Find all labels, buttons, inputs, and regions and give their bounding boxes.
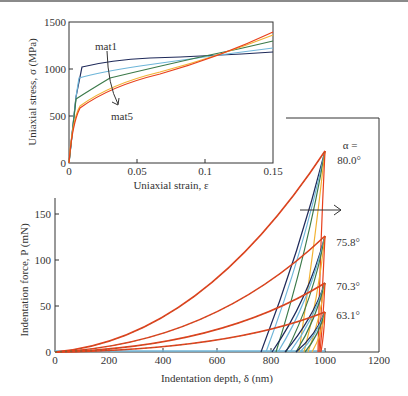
y-axis-label: Uniaxial stress, σ (MPa) [26,38,39,146]
x-tick-label: 0 [66,165,72,177]
alpha-70-3-label: 70.3° [336,280,360,292]
x-tick-label: 0 [52,354,58,366]
y-tick-label: 100 [35,254,52,266]
x-axis-label: Indentation depth, δ (nm) [161,372,273,385]
arrow-icon [300,205,341,215]
y-tick-label: 150 [35,208,52,220]
stress-strain-chart: 0 0.05 0.1 0.15 0 500 1000 1500 Uniaxial… [0,4,285,196]
y-tick-label: 0 [46,346,52,358]
mat1-label: mat1 [95,40,117,52]
x-tick-label: 1200 [368,354,391,366]
y-tick-label: 0 [61,157,67,169]
y-tick-label: 1000 [44,63,67,75]
y-tick-label: 50 [40,300,52,312]
y-tick-label: 500 [50,110,67,122]
alpha-63-1-label: 63.1° [336,309,360,321]
figure: 0 200 400 600 800 1000 1200 0 50 100 150… [0,0,408,396]
x-tick-label: 800 [263,354,280,366]
x-tick-label: 1000 [314,354,337,366]
x-axis-label: Uniaxial strain, ε [133,179,209,191]
curve-75-8 [55,236,325,352]
y-axis-label: Indentation force, P (mN) [18,223,31,337]
x-tick-label: 0.1 [198,165,212,177]
x-tick-label: 200 [101,354,118,366]
alpha-label: α = [343,139,358,151]
x-tick-label: 400 [155,354,172,366]
y-tick-label: 1500 [44,16,67,28]
alpha-75-8-label: 75.8° [336,236,360,248]
mat5-label: mat5 [111,110,133,122]
alpha-80-label: 80.0° [337,154,361,166]
x-tick-label: 600 [209,354,226,366]
x-tick-label: 0.15 [263,165,283,177]
x-tick-label: 0.05 [127,165,147,177]
